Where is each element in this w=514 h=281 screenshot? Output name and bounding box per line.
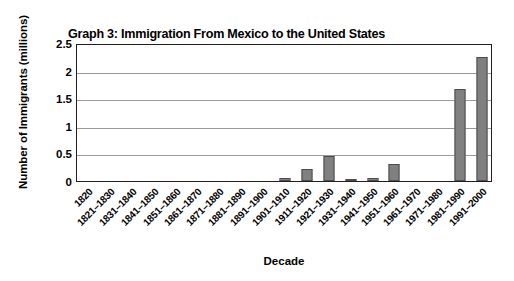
bar-slot [230, 45, 252, 181]
x-axis-title: Decade [76, 255, 492, 267]
bar-slot [252, 45, 274, 181]
y-axis-tick-label: 0 [32, 176, 72, 188]
bar [455, 89, 466, 181]
y-axis-tick-label: 2.5 [32, 38, 72, 50]
bar-slot [427, 45, 449, 181]
bar [345, 179, 356, 181]
x-axis-tick-labels: 18201821–18301831–18401841–18501851–1860… [76, 182, 492, 248]
bar-slot [186, 45, 208, 181]
bar-series [77, 45, 491, 181]
bar-slot [99, 45, 121, 181]
y-axis-tick-labels: 00.511.522.5 [28, 44, 72, 182]
bar [301, 169, 312, 181]
chart-title: Graph 3: Immigration From Mexico to the … [68, 27, 385, 41]
y-axis-tick-label: 0.5 [32, 148, 72, 160]
bar-slot [165, 45, 187, 181]
bar-slot [296, 45, 318, 181]
y-axis-tick-label: 2 [32, 66, 72, 78]
bar-slot [318, 45, 340, 181]
bar [323, 156, 334, 181]
bar [367, 178, 378, 181]
plot-area [76, 44, 492, 182]
bar-slot [405, 45, 427, 181]
bar-slot [121, 45, 143, 181]
y-axis-tick-label: 1.5 [32, 93, 72, 105]
bar-slot [362, 45, 384, 181]
bar-slot [384, 45, 406, 181]
chart-figure: Number of Immigrants (millions) Graph 3:… [0, 0, 514, 281]
bar-slot [471, 45, 493, 181]
bar [389, 164, 400, 181]
bar-slot [77, 45, 99, 181]
bar-slot [143, 45, 165, 181]
bar [477, 57, 488, 181]
bar-slot [208, 45, 230, 181]
bar [279, 178, 290, 181]
bar-slot [340, 45, 362, 181]
bar-slot [449, 45, 471, 181]
y-axis-tick-label: 1 [32, 121, 72, 133]
bar-slot [274, 45, 296, 181]
